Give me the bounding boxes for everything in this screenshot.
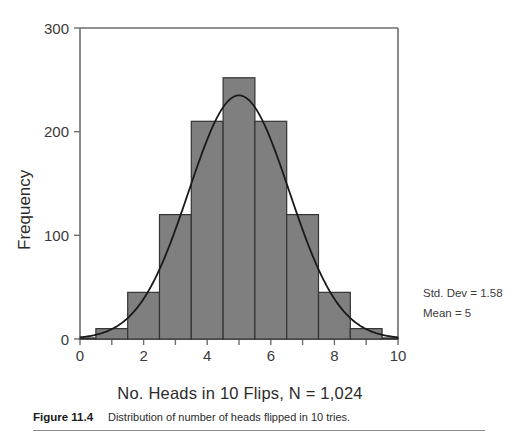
x-tick-label: 0 bbox=[76, 347, 84, 364]
caption-divider bbox=[33, 430, 485, 431]
y-tick-label: 200 bbox=[44, 123, 69, 140]
figure-container: 0100200300 0246810 Frequency Std. Dev = … bbox=[0, 0, 518, 437]
x-axis-title: No. Heads in 10 Flips, N = 1,024 bbox=[40, 384, 440, 403]
y-tick-label: 0 bbox=[61, 331, 69, 348]
histogram-bar bbox=[287, 215, 319, 339]
chart-area: 0100200300 0246810 Frequency Std. Dev = … bbox=[0, 0, 518, 385]
x-axis-title-text: No. Heads in 10 Flips, N = 1,024 bbox=[117, 384, 362, 402]
figure-caption-text: Distribution of number of heads flipped … bbox=[108, 411, 350, 423]
histogram-bars bbox=[80, 78, 398, 339]
annotation-mean: Mean = 5 bbox=[423, 307, 471, 319]
x-tick-label: 2 bbox=[139, 347, 147, 364]
x-tick-label: 6 bbox=[267, 347, 275, 364]
x-axis-ticks: 0246810 bbox=[76, 339, 407, 364]
x-tick-label: 4 bbox=[203, 347, 211, 364]
figure-caption-label: Figure 11.4 bbox=[33, 411, 93, 423]
annotation-std-dev: Std. Dev = 1.58 bbox=[423, 287, 503, 299]
histogram-bar bbox=[382, 338, 398, 339]
y-tick-label: 300 bbox=[44, 20, 69, 37]
figure-caption: Figure 11.4 Distribution of number of he… bbox=[33, 411, 493, 423]
histogram-bar bbox=[160, 215, 192, 339]
histogram-bar bbox=[255, 121, 287, 339]
y-tick-label: 100 bbox=[44, 227, 69, 244]
histogram-bar bbox=[223, 78, 255, 339]
x-tick-label: 8 bbox=[330, 347, 338, 364]
y-axis-title: Frequency bbox=[15, 169, 34, 250]
histogram-bar bbox=[191, 121, 223, 339]
histogram-bar bbox=[80, 338, 96, 339]
histogram-chart: 0100200300 0246810 Frequency Std. Dev = … bbox=[0, 0, 518, 385]
y-axis-ticks: 0100200300 bbox=[44, 20, 80, 348]
x-tick-label: 10 bbox=[390, 347, 407, 364]
